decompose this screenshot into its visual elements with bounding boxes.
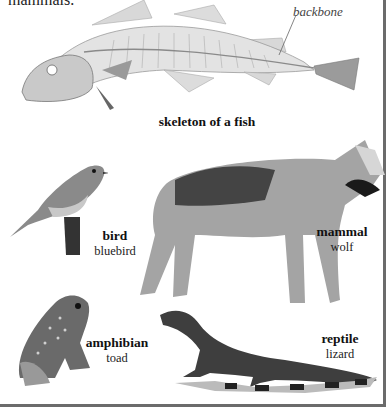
wolf-caption: mammal wolf (302, 224, 382, 255)
wolf-group-label: mammal (302, 224, 382, 240)
backbone-callout-label: backbone (293, 4, 343, 20)
lizard-group-label: reptile (300, 331, 380, 347)
wolf-image (135, 135, 387, 310)
lizard-example-label: lizard (300, 347, 380, 362)
bird-example-label: bluebird (90, 244, 140, 259)
toad-caption: amphibian toad (80, 335, 154, 366)
wolf-example-label: wolf (302, 240, 382, 255)
lizard-caption: reptile lizard (300, 331, 380, 362)
toad-group-label: amphibian (80, 335, 154, 351)
callout-line (279, 15, 296, 55)
toad-example-label: toad (80, 351, 154, 366)
textbook-page: mammals. backbone skele (0, 0, 386, 407)
bird-caption: bird bluebird (90, 228, 140, 259)
fish-caption: skeleton of a fish (132, 114, 282, 130)
bird-group-label: bird (90, 228, 140, 244)
